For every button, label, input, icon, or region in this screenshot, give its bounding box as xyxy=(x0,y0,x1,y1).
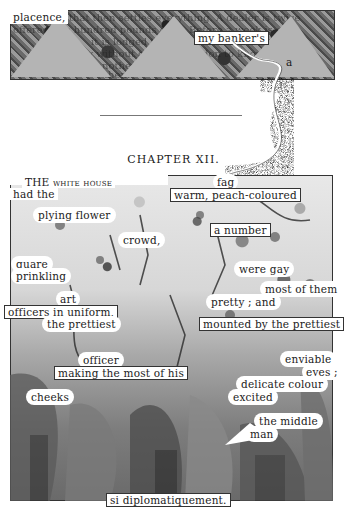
text-enviable: enviable xyxy=(282,353,334,365)
text-mounted-by-the-prettiest: mounted by the prettiest xyxy=(199,317,344,331)
text-delicate-colour: delicate colour xyxy=(238,378,326,390)
text-officer: officer xyxy=(80,354,122,366)
text-most-of-them: most of them xyxy=(262,283,340,295)
text-quare: quare xyxy=(13,258,51,270)
text-making-the-most-of-his: making the most of his xyxy=(54,366,188,380)
text-art: art xyxy=(58,293,78,305)
text-the-white-house: THE white house xyxy=(22,176,115,188)
text-the-middle: the middle xyxy=(256,415,321,427)
text-had-the: had the xyxy=(10,188,58,200)
collage-shapes xyxy=(10,175,333,501)
text-the-prettiest: the prettiest xyxy=(44,318,119,330)
text-plying-flower: plying flower xyxy=(35,209,114,221)
text-fag: fag xyxy=(215,176,236,188)
text-pretty-and: pretty ; and xyxy=(208,296,279,308)
text-crowd: crowd, xyxy=(120,234,163,246)
text-were-gay: were gay xyxy=(236,263,292,275)
text-officers-in-uniform: officers in uniform, xyxy=(4,305,118,319)
chapter-heading: CHAPTER XII. xyxy=(0,153,347,166)
text-placence: placence, xyxy=(10,10,68,24)
text-cheeks: cheeks xyxy=(28,391,72,403)
text-warm-peach-coloured: warm, peach-coloured xyxy=(170,188,301,202)
text-eyes: eyes ; xyxy=(304,366,340,378)
text-prinkling: prinkling xyxy=(13,270,69,282)
text-si-diplomatiquement: si diplomatiquement. xyxy=(106,493,231,507)
text-man: man xyxy=(248,428,276,440)
divider-line xyxy=(100,115,242,116)
main-collage-art xyxy=(10,175,333,501)
text-a-number: a number xyxy=(210,223,271,237)
text-excited: excited xyxy=(230,391,276,403)
